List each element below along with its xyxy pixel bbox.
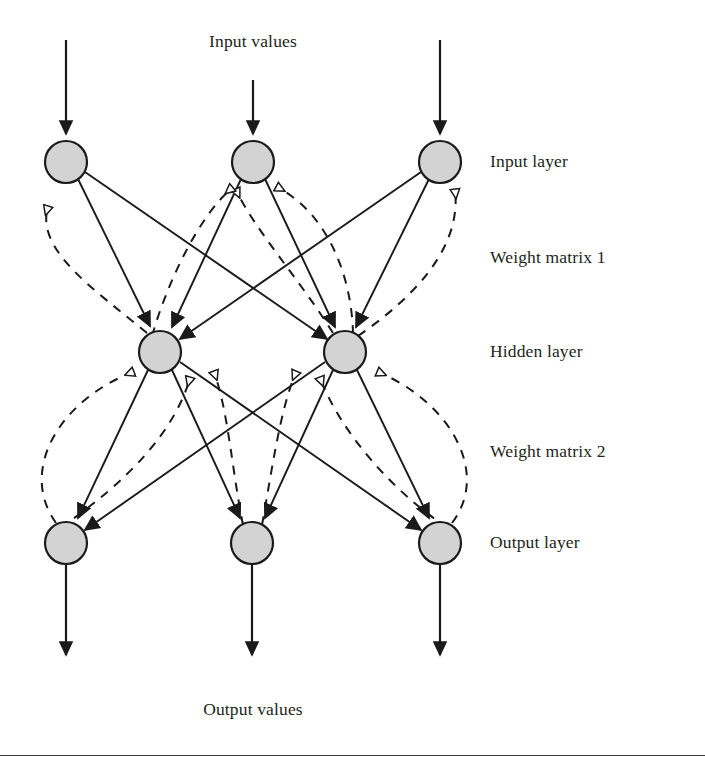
input-layer-nodes [45,141,461,183]
weight-matrix-2-label: Weight matrix 2 [490,443,606,461]
back-edge-h2-i2-left [236,190,333,333]
output-values-label: Output values [203,701,303,719]
edge-i3-h2 [356,179,429,327]
node-input-3[interactable] [419,141,461,183]
back-edge-o3-h2 [378,372,467,523]
input-value-arrows [66,40,440,134]
back-edge-o3-h1 [320,378,448,528]
edge-h1-o2 [172,370,240,518]
edge-i2-h2 [265,179,335,327]
node-hidden-1[interactable] [139,331,181,373]
input-values-label: Input values [209,33,297,51]
edge-i3-h1 [180,172,421,339]
output-layer-nodes [45,522,461,564]
back-edge-h2-i3 [358,190,456,336]
node-output-1[interactable] [45,522,87,564]
weight-matrix-1-label: Weight matrix 1 [490,249,606,267]
edge-h2-o3 [357,370,429,518]
node-output-2[interactable] [231,522,273,564]
bottom-divider [0,755,705,756]
node-hidden-2[interactable] [324,331,366,373]
forward-edges-hidden-to-output [78,362,429,530]
node-input-1[interactable] [45,141,87,183]
backward-edges-hidden-to-input [46,187,455,336]
neural-network-diagram [0,0,705,767]
edge-h1-o1 [78,370,148,518]
edge-h2-o1 [85,362,325,530]
back-edge-h1-i1 [46,207,147,333]
input-layer-label: Input layer [490,153,568,171]
output-layer-label: Output layer [490,534,580,552]
edge-h2-o2 [265,370,333,518]
back-edge-h1-i2 [152,188,232,336]
node-input-2[interactable] [232,141,274,183]
forward-edges-input-to-hidden [78,172,429,339]
output-value-arrows [66,564,440,655]
hidden-layer-label: Hidden layer [490,343,583,361]
node-output-3[interactable] [419,522,461,564]
edge-h1-o3 [180,362,421,530]
backward-edges-output-to-hidden [42,372,467,528]
hidden-layer-nodes [139,331,366,373]
back-edge-o1-h2 [60,378,190,528]
edge-i1-h1 [78,179,150,326]
figure-root: Input values Input layer Weight matrix 1… [0,0,705,767]
